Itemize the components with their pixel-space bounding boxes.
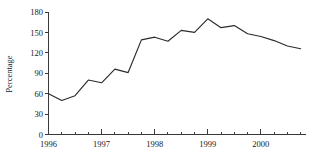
chart-canvas: 0306090120150180 19961997199819992000 Pe… [0,0,312,160]
y-tick-label: 90 [35,68,44,78]
y-tick-labels: 0306090120150180 [30,7,43,140]
y-tick-label: 60 [35,89,44,99]
y-tick-label: 120 [30,48,43,58]
x-major-tick-marks [49,129,261,135]
x-tick-labels: 19961997199819992000 [40,139,269,149]
y-tick-label: 150 [30,28,43,38]
line-chart: 0306090120150180 19961997199819992000 Pe… [0,0,312,160]
x-tick-label: 1998 [146,139,163,149]
y-axis-title: Percentage [4,55,14,93]
y-tick-label: 30 [35,109,44,119]
y-tick-marks [45,12,49,135]
y-tick-label: 180 [30,7,43,17]
x-tick-label: 1997 [93,139,110,149]
x-tick-label: 1999 [199,139,216,149]
x-axis-group: 19961997199819992000 [40,129,306,149]
x-tick-label: 1996 [40,139,57,149]
data-series-line [49,19,301,101]
y-axis-group: 0306090120150180 [30,7,48,140]
x-tick-label: 2000 [252,139,269,149]
